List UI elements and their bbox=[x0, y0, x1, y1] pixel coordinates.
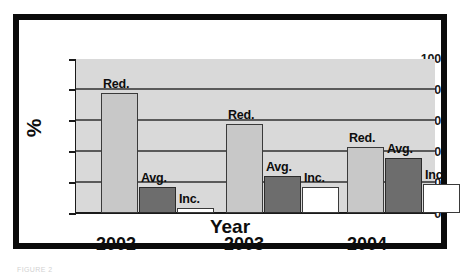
chart-canvas: % 100 80 60 40 20 0 Red.Avg.Inc.Red.Avg.… bbox=[19, 20, 441, 243]
bar-label-2004-inc: Inc. bbox=[425, 168, 446, 182]
bar-label-2004-avg: Avg. bbox=[387, 142, 413, 156]
bar-2004-red bbox=[347, 147, 384, 213]
x-tick-label-2003: 2003 bbox=[224, 234, 264, 255]
bar-label-2002-avg: Avg. bbox=[141, 171, 167, 185]
bar-2004-inc bbox=[423, 184, 460, 213]
bar-label-2002-inc: Inc. bbox=[179, 192, 200, 206]
bar-2003-red bbox=[226, 124, 263, 213]
bar-2002-inc bbox=[177, 208, 214, 213]
x-tick-label-2004: 2004 bbox=[347, 234, 387, 255]
figure-caption-remnant: FIGURE 2 bbox=[17, 266, 52, 273]
x-tick-label-2002: 2002 bbox=[96, 234, 136, 255]
bar-label-2004-red: Red. bbox=[349, 131, 375, 145]
bar-label-2003-inc: Inc. bbox=[304, 171, 325, 185]
bar-2002-avg bbox=[139, 187, 176, 213]
y-axis-title: % bbox=[22, 119, 46, 138]
bar-2003-inc bbox=[302, 187, 339, 213]
gridline-80 bbox=[76, 88, 435, 90]
bar-2004-avg bbox=[385, 158, 422, 213]
bar-label-2003-avg: Avg. bbox=[266, 160, 292, 174]
bar-label-2003-red: Red. bbox=[228, 108, 254, 122]
bar-2002-red bbox=[101, 93, 138, 213]
bar-2003-avg bbox=[264, 176, 301, 213]
bar-label-2002-red: Red. bbox=[103, 77, 129, 91]
figure-frame: % 100 80 60 40 20 0 Red.Avg.Inc.Red.Avg.… bbox=[13, 14, 447, 249]
plot-area: Red.Avg.Inc.Red.Avg.Inc.Red.Avg.Inc. bbox=[76, 59, 435, 213]
